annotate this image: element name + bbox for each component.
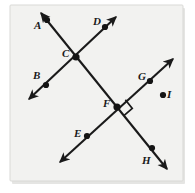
point-dot-i [160,92,166,98]
point-dot-a [44,17,50,23]
point-dot-h [149,145,155,151]
point-label-b: B [33,70,40,81]
point-label-f: F [103,98,110,109]
point-dot-g [147,78,153,84]
point-label-g: G [138,71,146,82]
point-label-d: D [93,16,101,27]
point-dot-e [84,133,90,139]
point-label-e: E [74,128,81,139]
point-label-a: A [34,20,41,31]
point-dot-f [113,103,120,110]
point-dot-d [102,24,108,30]
geometry-figure: ABCDEFGHI [0,0,195,193]
geometry-canvas [0,0,195,193]
point-dot-b [43,82,49,88]
point-label-i: I [167,89,171,100]
point-dot-c [72,53,79,60]
point-label-h: H [142,155,151,166]
point-label-c: C [62,48,69,59]
